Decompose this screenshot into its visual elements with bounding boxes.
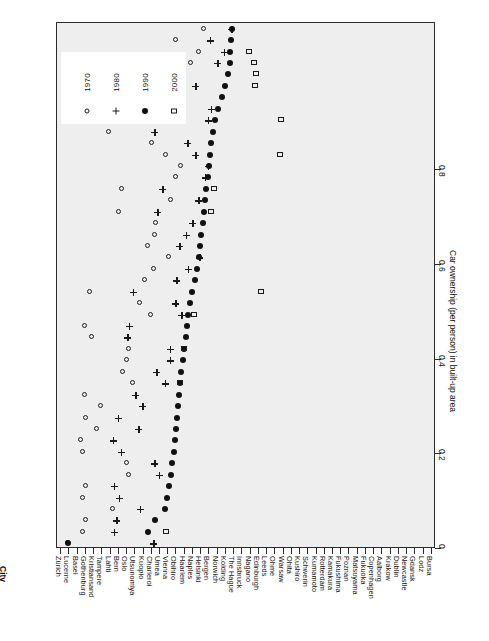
category-label: Fukushima [334,556,343,593]
category-tick [126,548,127,554]
data-point-1990 [162,506,168,512]
data-point-1990 [227,60,233,66]
category-tick [274,548,275,554]
category-tick [266,548,267,554]
data-point-1980 [150,540,157,547]
category-tick [110,548,111,554]
legend-entry-1980: 1980 [102,52,130,124]
category-tick [398,548,399,554]
category-tick [200,548,201,554]
data-point-1970 [124,357,129,362]
data-point-1990 [202,197,208,203]
data-point-1980 [132,392,139,399]
data-point-2000 [258,289,264,294]
data-point-1980 [178,312,185,319]
data-point-1990 [208,140,214,146]
data-point-1970 [124,460,129,465]
category-tick [357,548,358,554]
category-label: Gdansk [408,556,417,582]
data-point-1970 [130,380,135,385]
category-label: Fukuoka [359,556,368,585]
category-label: Copenhagen [367,556,376,599]
data-point-1970 [106,129,111,134]
data-point-1980 [167,346,174,353]
category-tick [250,548,251,554]
legend-entry-1990: 1990 [131,52,159,124]
category-label: Nagano [244,556,253,582]
data-point-1970 [94,426,99,431]
data-point-1990 [183,334,189,340]
data-point-2000 [251,60,257,65]
data-point-1970 [201,26,206,31]
data-point-1980 [111,529,118,536]
category-tick [151,548,152,554]
category-tick [143,548,144,554]
data-point-1990 [171,449,177,455]
data-point-1970 [196,49,201,54]
data-point-1980 [167,357,174,364]
data-point-1990 [219,94,225,100]
data-point-1980 [173,277,180,284]
category-label: The Hague [227,556,236,593]
category-label: Lucerne [62,556,71,583]
category-label: Kumamoto [310,556,319,592]
data-point-1980 [118,449,125,456]
legend-label: 1980 [112,60,121,106]
category-tick [332,548,333,554]
data-point-1990 [173,426,179,432]
value-tick-label: 0.4 [437,355,447,367]
data-point-2000 [278,117,284,122]
category-label: Basel [71,556,80,575]
data-point-1990 [192,277,198,283]
category-tick [381,548,382,554]
category-label: Newcastle [400,556,409,591]
data-point-1970 [80,495,85,500]
data-point-1990 [215,106,221,112]
data-point-1980 [110,437,117,444]
data-point-1980 [135,426,142,433]
data-point-2000 [253,71,259,76]
category-label: Gothenburg [79,556,88,596]
data-point-1990 [172,437,178,443]
category-tick [159,548,160,554]
data-point-1990 [174,415,180,421]
data-point-1980 [126,323,133,330]
data-point-2000 [211,186,217,191]
data-point-1980 [192,152,199,159]
data-point-1990 [197,243,203,249]
category-label: Ohita [285,556,294,574]
data-point-1990 [227,49,233,55]
data-point-1970 [83,415,88,420]
data-point-2000 [208,209,214,214]
category-label: Leeds [260,556,269,576]
legend-label: 1970 [83,60,92,106]
data-point-1990 [194,266,200,272]
data-point-1970 [168,197,173,202]
data-point-1970 [80,529,85,534]
category-label: Rotterdam [318,556,327,591]
data-point-1980 [113,517,120,524]
legend-entry-2000: 2000 [160,52,188,124]
category-tick [299,548,300,554]
data-point-1990 [168,472,174,478]
data-point-1980 [162,380,169,387]
data-point-1970 [151,266,156,271]
data-point-1990 [203,186,209,192]
data-point-1980 [189,220,196,227]
category-label: Naples [186,556,195,579]
data-point-1990 [178,369,184,375]
data-point-1980 [184,140,191,147]
data-point-1970 [173,174,178,179]
legend-marker-open-circle-icon [82,106,92,116]
data-point-1970 [142,277,147,282]
category-label: Tampere [95,556,104,585]
data-point-1990 [205,174,211,180]
data-point-1980 [115,415,122,422]
category-tick [390,548,391,554]
data-point-1980 [156,472,163,479]
data-point-1970 [110,506,115,511]
data-point-1990 [152,517,158,523]
chart-legend: 1970198019902000 [61,52,186,124]
data-point-1970 [166,254,171,259]
category-label: Ohme [268,556,277,576]
